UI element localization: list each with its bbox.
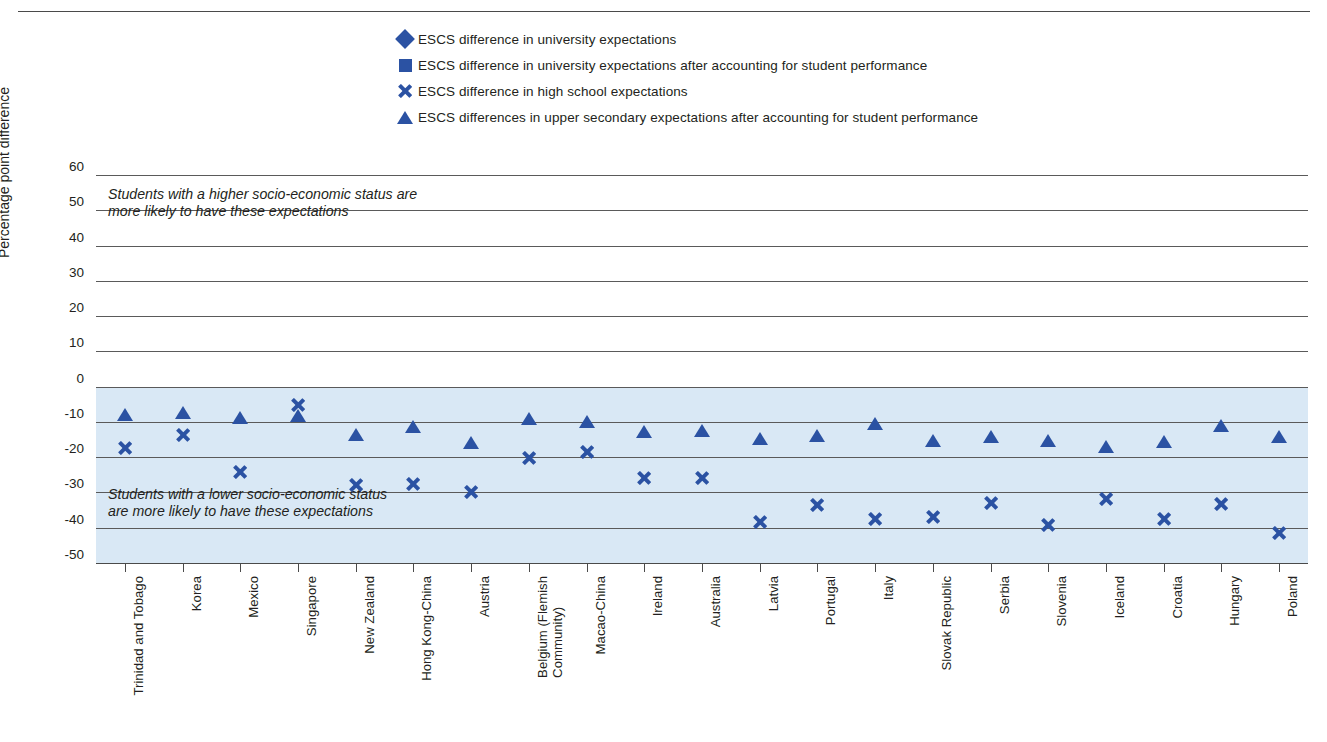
data-point — [694, 407, 710, 425]
data-point — [521, 395, 537, 413]
x-axis-tick — [183, 563, 184, 572]
data-point — [579, 398, 595, 416]
triangle-marker-icon — [397, 111, 413, 124]
data-point — [348, 411, 364, 429]
triangle-marker-icon — [521, 395, 537, 425]
data-point — [175, 389, 191, 407]
x-axis-category-label: Latvia — [766, 576, 781, 611]
triangle-marker-icon — [1271, 413, 1287, 443]
x-axis-tick — [1221, 563, 1222, 572]
x-axis-category-label: Slovak Republic — [939, 576, 954, 671]
data-point — [405, 403, 421, 421]
triangle-marker-icon — [463, 419, 479, 449]
triangle-marker-icon — [290, 392, 306, 422]
triangle-marker-icon — [809, 412, 825, 442]
y-axis-tick-label: -40 — [34, 512, 90, 527]
x-axis-category-label: Hungary — [1227, 576, 1242, 626]
x-axis-category-label: Poland — [1285, 576, 1300, 617]
data-point — [117, 391, 133, 409]
x-axis-tick — [413, 563, 414, 572]
triangle-marker-icon — [348, 411, 364, 441]
x-axis-tick — [875, 563, 876, 572]
x-axis-tick — [991, 563, 992, 572]
x-axis-tick — [1048, 563, 1049, 572]
y-axis-tick-label: -30 — [34, 476, 90, 491]
data-point — [232, 394, 248, 412]
triangle-marker-icon — [1213, 402, 1229, 432]
x-axis-category-label: Hong Kong-China — [419, 576, 434, 681]
x-axis-category-label: Iceland — [1112, 576, 1127, 619]
x-axis-tick — [644, 563, 645, 572]
legend-item[interactable]: ESCS differences in upper secondary expe… — [392, 104, 1152, 130]
x-axis-category-label: New Zealand — [362, 576, 377, 654]
x-axis-category-label: Macao-China — [593, 576, 608, 654]
cross-marker-icon — [397, 83, 413, 99]
gridline — [96, 316, 1308, 317]
legend-item[interactable]: ESCS difference in university expectatio… — [392, 26, 1152, 52]
data-point — [983, 413, 999, 431]
x-axis-tick — [702, 563, 703, 572]
y-axis-tick-label: 30 — [34, 265, 90, 280]
triangle-marker-icon — [752, 415, 768, 445]
data-point — [752, 415, 768, 433]
x-axis-category-label: Portugal — [823, 576, 838, 625]
triangle-marker-icon — [405, 403, 421, 433]
gridline — [96, 387, 1308, 388]
triangle-marker-icon — [1098, 423, 1114, 453]
legend-item-label: ESCS difference in university expectatio… — [418, 58, 927, 73]
x-axis-category-label: Serbia — [997, 576, 1012, 614]
data-point — [925, 417, 941, 435]
data-point — [809, 412, 825, 430]
y-axis-tick-label: 20 — [34, 300, 90, 315]
triangle-marker-icon — [175, 389, 191, 419]
data-point — [636, 408, 652, 426]
annotation-lower-status: Students with a lower socio-economic sta… — [108, 486, 387, 520]
triangle-marker-icon — [925, 417, 941, 447]
chart-legend: ESCS difference in university expectatio… — [392, 26, 1152, 130]
x-axis-tick — [240, 563, 241, 572]
triangle-marker-icon — [1156, 418, 1172, 448]
gridline — [96, 281, 1308, 282]
data-point — [867, 400, 883, 418]
top-divider — [18, 11, 1310, 12]
triangle-marker-icon — [983, 413, 999, 443]
x-axis-category-label: Italy — [881, 576, 896, 600]
x-axis-tick — [1164, 563, 1165, 572]
x-axis-category-label: Ireland — [650, 576, 665, 616]
triangle-marker-icon — [636, 408, 652, 438]
legend-marker — [392, 29, 418, 49]
triangle-marker-icon — [117, 391, 133, 421]
x-axis-tick — [125, 563, 126, 572]
y-axis-tick-label: -20 — [34, 441, 90, 456]
data-point — [463, 419, 479, 437]
legend-item[interactable]: ESCS difference in high school expectati… — [392, 78, 1152, 104]
triangle-marker-icon — [579, 398, 595, 428]
triangle-marker-icon — [232, 394, 248, 424]
x-axis-category-label: Belgium (Flemish Community) — [535, 576, 565, 678]
gridline — [96, 528, 1308, 529]
y-axis-tick-label: 40 — [34, 230, 90, 245]
x-axis-category-label: Mexico — [246, 576, 261, 618]
data-point — [1271, 413, 1287, 431]
data-point — [1098, 423, 1114, 441]
y-axis-tick-label: 10 — [34, 335, 90, 350]
triangle-marker-icon — [694, 407, 710, 437]
x-axis-category-label: Croatia — [1170, 576, 1185, 619]
x-axis-tick — [298, 563, 299, 572]
data-point — [1156, 418, 1172, 436]
gridline — [96, 457, 1308, 458]
legend-item-label: ESCS differences in upper secondary expe… — [418, 110, 978, 125]
annotation-higher-status: Students with a higher socio-economic st… — [108, 186, 417, 220]
x-axis-tick — [817, 563, 818, 572]
data-point — [1213, 402, 1229, 420]
x-axis-category-label: Trinidad and Tobago — [131, 576, 146, 696]
legend-marker — [392, 107, 418, 127]
y-axis-tick-label: -10 — [34, 406, 90, 421]
gridline — [96, 246, 1308, 247]
triangle-marker-icon — [1040, 417, 1056, 447]
x-axis-tick — [1279, 563, 1280, 572]
legend-marker — [392, 55, 418, 75]
x-axis-tick — [471, 563, 472, 572]
legend-item[interactable]: ESCS difference in university expectatio… — [392, 52, 1152, 78]
x-axis-tick — [933, 563, 934, 572]
